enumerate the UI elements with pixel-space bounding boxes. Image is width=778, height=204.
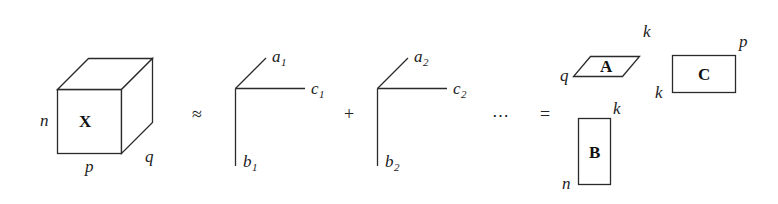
term-1-mode-c-letter: c — [311, 79, 319, 98]
matrix-b-dim-k: k — [613, 100, 621, 117]
term-2-mode-b-index: 2 — [394, 161, 400, 173]
term-2-mode-a-line — [378, 58, 409, 89]
ellipsis-operator: ⋯ — [492, 107, 510, 124]
matrix-c-dim-p: p — [739, 33, 748, 50]
term-2-mode-c-letter: c — [453, 79, 461, 98]
term-2-mode-c-label: c2 — [453, 80, 467, 100]
equals-operator: = — [540, 105, 550, 123]
term-1-mode-a-index: 1 — [281, 56, 287, 68]
matrix-b-label: B — [589, 144, 600, 161]
matrix-a-dim-k: k — [643, 23, 651, 40]
term-2-mode-b-letter: b — [385, 152, 394, 171]
term-1-mode-b-index: 1 — [252, 161, 258, 173]
tensor-label-x: X — [79, 113, 91, 130]
term-1-mode-b-label: b1 — [243, 153, 258, 173]
matrix-a-dim-q: q — [560, 67, 569, 84]
term-1-mode-a-letter: a — [272, 47, 281, 66]
approx-operator: ≈ — [192, 105, 202, 123]
term-1-mode-c-label: c1 — [311, 80, 325, 100]
term-1-mode-b-letter: b — [243, 152, 252, 171]
rank-one-term-1-axes — [236, 58, 306, 166]
term-1-mode-a-label: a1 — [272, 48, 287, 68]
tensor-dim-p: p — [85, 158, 94, 175]
tensor-dim-n: n — [40, 112, 49, 129]
tensor-dim-q: q — [145, 148, 154, 165]
term-2-mode-a-letter: a — [414, 47, 423, 66]
term-2-mode-a-index: 2 — [423, 56, 429, 68]
tensor-decomposition-figure: X n p q ≈ a1 c1 b1 + a2 c2 b2 ⋯ = A q k … — [0, 0, 778, 204]
tensor-cube-shape — [58, 59, 153, 154]
term-2-mode-c-index: 2 — [461, 88, 467, 100]
matrix-a-label: A — [600, 58, 612, 75]
matrix-c-label: C — [698, 66, 710, 83]
plus-operator: + — [344, 105, 354, 123]
term-1-mode-a-line — [236, 58, 267, 89]
matrix-c-dim-k: k — [655, 84, 663, 101]
term-2-mode-a-label: a2 — [414, 48, 429, 68]
matrix-b-dim-n: n — [562, 175, 571, 192]
rank-one-term-2-axes — [378, 58, 448, 166]
term-1-mode-c-index: 1 — [319, 88, 325, 100]
term-2-mode-b-label: b2 — [385, 153, 400, 173]
figure-vector-layer — [0, 0, 778, 204]
